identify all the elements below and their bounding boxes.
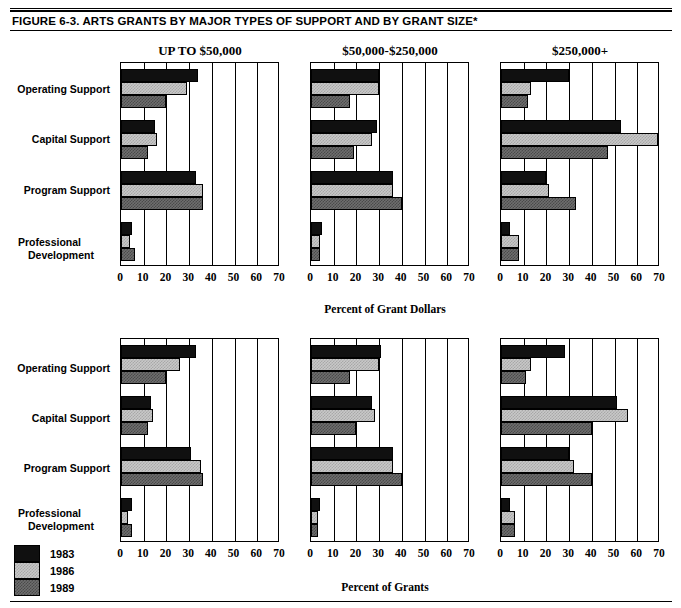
x-tick-10: 10 [511,271,535,283]
bar-1989-program-support [311,197,402,210]
bar-1986-operating-support [501,82,531,95]
x-tick-70: 70 [267,271,291,283]
gridline-50 [425,63,426,265]
x-tick-10: 10 [131,271,155,283]
x-tick-40: 40 [199,271,223,283]
bar-1989-capital-support [501,422,592,435]
x-tick-70: 70 [267,547,291,559]
bar-1986-program-support [501,460,574,473]
bar-1983-capital-support [121,120,155,133]
x-tick-50: 50 [222,271,246,283]
gridline-30 [379,339,380,541]
x-tick-0: 0 [108,547,132,559]
bar-1986-professional-development [311,235,320,248]
bar-1983-capital-support [501,396,617,409]
bar-1983-professional-development [121,498,132,511]
gridline-40 [212,339,213,541]
gridline-60 [447,339,448,541]
x-tick-50: 50 [412,547,436,559]
x-tick-30: 30 [556,271,580,283]
bar-1986-professional-development [311,511,318,524]
category-label-capital-support-bottom: Capital Support [0,412,110,425]
gridline-20 [546,339,547,541]
bar-1986-program-support [121,184,203,197]
bar-1986-operating-support [501,358,531,371]
x-tick-0: 0 [488,271,512,283]
axis-title-top-row: Percent of Grant Dollars [270,303,500,315]
bar-1986-program-support [121,460,201,473]
title-rule-bottom [10,30,672,31]
x-tick-50: 50 [602,271,626,283]
gridline-50 [615,63,616,265]
x-tick-50: 50 [222,547,246,559]
category-label-operating-support-bottom: Operating Support [0,362,110,375]
bar-1983-capital-support [311,120,377,133]
column-heading-0: UP TO $50,000 [120,43,280,59]
x-tick-40: 40 [199,547,223,559]
x-tick-20: 20 [533,271,557,283]
bar-1989-professional-development [501,524,515,537]
bar-1983-professional-development [311,222,322,235]
bar-1989-professional-development [311,524,318,537]
x-tick-60: 60 [624,547,648,559]
bar-1983-professional-development [311,498,320,511]
gridline-20 [546,63,547,265]
x-tick-40: 40 [389,547,413,559]
gridline-50 [615,339,616,541]
bar-1986-program-support [311,460,393,473]
bar-1983-program-support [501,171,546,184]
category-label-operating-support-top: Operating Support [0,83,110,96]
chart-panel-bottom-0: 010203040506070 [120,338,279,542]
x-tick-0: 0 [298,271,322,283]
bar-1983-program-support [121,447,191,460]
bar-1989-capital-support [501,146,608,159]
x-tick-20: 20 [343,271,367,283]
category-label-capital-support-top: Capital Support [0,133,110,146]
page-title: FIGURE 6-3. ARTS GRANTS BY MAJOR TYPES O… [10,12,672,30]
legend-label-1989: 1989 [50,582,74,594]
gridline-60 [637,339,638,541]
gridline-60 [637,63,638,265]
axis-title-bottom-row: Percent of Grants [280,581,490,593]
category-label-line-2: Development [18,249,110,262]
bar-1983-operating-support [311,69,379,82]
x-tick-70: 70 [647,271,671,283]
bar-1983-professional-development [501,498,510,511]
x-tick-40: 40 [579,271,603,283]
bar-1986-operating-support [311,358,379,371]
plot-area [120,62,279,266]
bar-1986-capital-support [501,409,628,422]
x-tick-10: 10 [511,547,535,559]
bar-1986-program-support [311,184,393,197]
bar-1989-program-support [311,473,402,486]
bar-1989-program-support [501,197,576,210]
bar-1986-operating-support [121,358,180,371]
bar-1989-operating-support [311,95,350,108]
bar-1986-capital-support [121,133,157,146]
category-label-line-2: Development [18,520,110,533]
chart-panel-top-2: 010203040506070 [500,62,659,266]
x-tick-40: 40 [579,547,603,559]
bar-1983-professional-development [121,222,132,235]
bar-1983-program-support [501,447,569,460]
bar-1986-professional-development [121,235,130,248]
bar-1989-operating-support [121,95,166,108]
bar-1989-professional-development [121,248,135,261]
plot-area [500,62,659,266]
x-tick-60: 60 [434,271,458,283]
category-label-line-1: Professional [18,236,110,249]
gridline-40 [592,339,593,541]
bar-1989-operating-support [501,95,528,108]
bar-1989-program-support [121,473,203,486]
legend-item-1989: 1989 [14,579,74,596]
bar-1989-capital-support [311,146,354,159]
x-tick-50: 50 [602,547,626,559]
x-tick-70: 70 [647,547,671,559]
gridline-50 [235,339,236,541]
bar-1983-program-support [311,447,393,460]
gridline-40 [212,63,213,265]
bar-1989-capital-support [121,146,148,159]
bar-1989-operating-support [311,371,350,384]
x-tick-20: 20 [153,271,177,283]
gridline-50 [235,63,236,265]
